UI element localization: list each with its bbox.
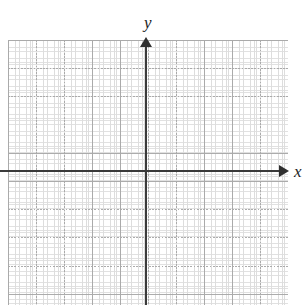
- y-axis: [145, 45, 147, 305]
- x-axis-arrowhead-icon: [279, 165, 289, 177]
- graph-paper-grid: [8, 40, 288, 305]
- x-axis-label: x: [294, 163, 302, 180]
- coordinate-grid-figure: y y x: [0, 0, 302, 305]
- y-axis-arrowhead-icon: [140, 37, 152, 47]
- major-gridlines: [8, 40, 288, 305]
- x-axis: [0, 170, 282, 172]
- y-axis-label: y: [144, 14, 152, 31]
